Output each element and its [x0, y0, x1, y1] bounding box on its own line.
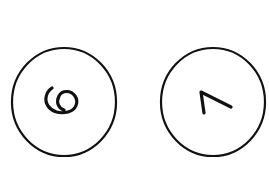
drawing-canvas [0, 0, 269, 184]
